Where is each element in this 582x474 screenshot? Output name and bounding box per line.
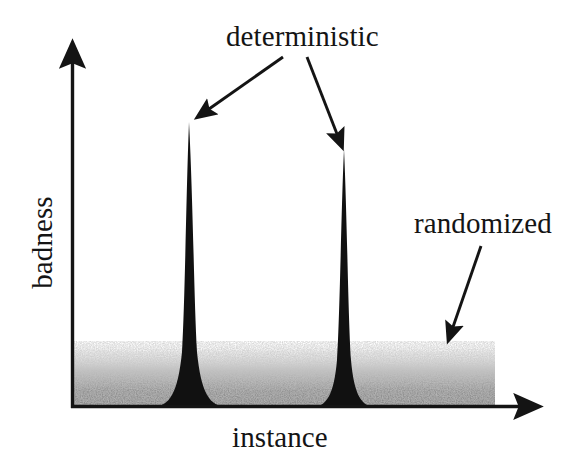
figure-canvas: deterministic randomized instance badnes… <box>0 0 582 474</box>
randomized-noise-band <box>72 341 495 407</box>
annotation-label-deterministic: deterministic <box>226 22 379 51</box>
arrow-deterministic-left <box>209 57 283 109</box>
arrow-deterministic-right <box>307 57 337 134</box>
x-axis-label: instance <box>232 423 328 452</box>
arrow-randomized <box>453 246 481 327</box>
y-axis-label: badness <box>28 173 57 313</box>
annotation-label-randomized: randomized <box>414 209 552 238</box>
